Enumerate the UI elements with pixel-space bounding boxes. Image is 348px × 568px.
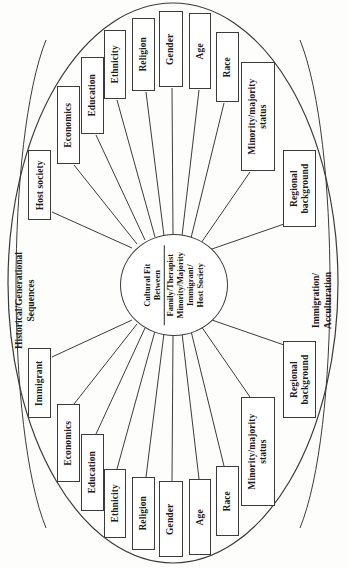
node-economics-top[interactable]: Economics	[57, 86, 80, 164]
node-minority-majority-top-label: Minority/majority status	[247, 78, 268, 154]
node-age-top[interactable]: Age	[189, 13, 211, 89]
center-text: Cultural Fit Between Family/Therapist Mi…	[143, 239, 205, 331]
node-ethnicity-bottom-label: Ethnicity	[110, 484, 121, 522]
center-line-1: Cultural Fit	[143, 239, 153, 331]
node-minority-majority-bottom-line-2: status	[258, 439, 268, 463]
center-circle: Cultural Fit Between Family/Therapist Mi…	[120, 234, 228, 336]
node-economics-bottom-label: Economics	[63, 421, 74, 466]
node-host-society[interactable]: Host society	[28, 150, 51, 220]
node-minority-majority-top[interactable]: Minority/majority status	[241, 62, 275, 171]
diagram-canvas: Cultural Fit Between Family/Therapist Mi…	[0, 0, 348, 568]
node-gender-bottom-label: Gender	[166, 503, 177, 534]
node-gender-top-label: Gender	[166, 33, 177, 64]
node-education-bottom-label: Education	[87, 451, 98, 494]
node-religion-top[interactable]: Religion	[132, 18, 155, 91]
node-immigrant-label: Immigrant	[34, 360, 45, 405]
node-race-top[interactable]: Race	[216, 32, 239, 102]
node-ethnicity-top[interactable]: Ethnicity	[104, 30, 126, 99]
node-education-top-label: Education	[87, 74, 98, 117]
node-age-bottom-label: Age	[195, 509, 206, 525]
node-education-top[interactable]: Education	[81, 57, 104, 134]
node-religion-bottom[interactable]: Religion	[132, 477, 155, 550]
region-immigration-line-1: Immigration/	[311, 273, 322, 328]
node-regional-background-bottom-line-2: background	[300, 355, 310, 405]
node-regional-background-top-line-2: background	[300, 164, 310, 214]
node-regional-background-top[interactable]: Regional background	[283, 150, 316, 227]
node-minority-majority-bottom[interactable]: Minority/majority status	[241, 397, 275, 506]
node-ethnicity-bottom[interactable]: Ethnicity	[104, 469, 126, 538]
center-line-5: Immigrant/	[185, 239, 195, 331]
node-ethnicity-top-label: Ethnicity	[110, 45, 121, 83]
center-line-2: Between	[153, 239, 163, 331]
node-minority-majority-top-line-2: status	[258, 104, 268, 128]
node-regional-background-bottom-label: Regional background	[289, 355, 310, 405]
node-minority-majority-top-line-1: Minority/majority	[247, 78, 257, 154]
node-regional-background-bottom[interactable]: Regional background	[283, 341, 316, 418]
region-immigration-line-2: Acculturation	[322, 271, 333, 328]
center-line-6: Host Society	[195, 239, 205, 331]
node-gender-top[interactable]: Gender	[159, 11, 183, 87]
node-age-top-label: Age	[195, 43, 206, 59]
region-historical-line-2: Sequences	[24, 279, 35, 321]
region-historical-line-1: Historical/Generational	[13, 252, 24, 349]
node-religion-bottom-label: Religion	[138, 496, 149, 531]
node-host-society-label: Host society	[34, 160, 45, 210]
node-race-bottom[interactable]: Race	[216, 466, 239, 536]
node-gender-bottom[interactable]: Gender	[159, 481, 183, 557]
region-historical-text: Historical/Generational Sequences	[13, 252, 36, 349]
node-race-bottom-label: Race	[222, 491, 233, 511]
region-label-historical: Historical/Generational Sequences	[2, 240, 46, 360]
region-immigration-text: Immigration/ Acculturation	[311, 271, 334, 328]
node-minority-majority-bottom-label: Minority/majority status	[247, 413, 268, 489]
node-education-bottom[interactable]: Education	[81, 434, 104, 511]
center-line-3: Family/Therapist	[166, 239, 176, 331]
node-economics-top-label: Economics	[63, 103, 74, 148]
node-regional-background-top-label: Regional background	[289, 164, 310, 214]
node-race-top-label: Race	[222, 57, 233, 77]
center-divider-rule	[164, 245, 165, 325]
node-religion-top-label: Religion	[138, 37, 149, 72]
center-line-4: Minority/Majority	[176, 239, 186, 331]
node-regional-background-bottom-line-1: Regional	[289, 361, 299, 398]
node-immigrant[interactable]: Immigrant	[28, 348, 51, 418]
node-minority-majority-bottom-line-1: Minority/majority	[247, 413, 257, 489]
node-regional-background-top-line-1: Regional	[289, 170, 299, 207]
node-economics-bottom[interactable]: Economics	[57, 404, 80, 482]
node-age-bottom[interactable]: Age	[189, 479, 211, 555]
